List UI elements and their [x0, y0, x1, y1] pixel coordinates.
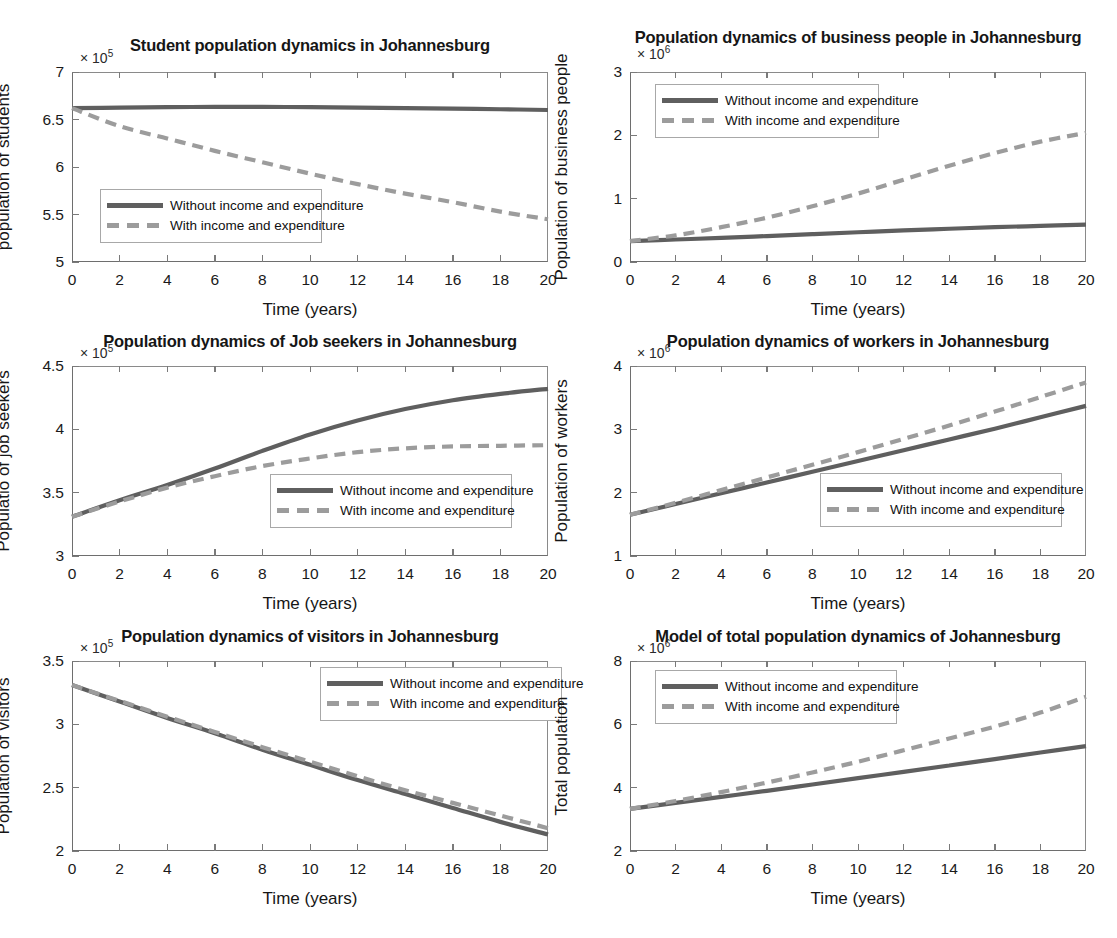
- xtick-total-population-5: 10: [849, 860, 866, 878]
- xtick-total-population-1: 2: [671, 860, 680, 878]
- xtick-total-population-7: 14: [941, 860, 958, 878]
- xtick-total-population-4: 8: [808, 860, 817, 878]
- exponent-prefix: × 10: [637, 640, 665, 656]
- series-line-without: [630, 746, 1086, 809]
- exponent-value: 6: [665, 638, 671, 649]
- ytick-total-population-2: 6: [568, 715, 622, 733]
- panel-total-population: Model of total population dynamics of Jo…: [0, 0, 1117, 938]
- xtick-total-population-2: 4: [717, 860, 726, 878]
- xtick-total-population-6: 12: [895, 860, 912, 878]
- legend-swatch-with: [662, 704, 718, 709]
- xtick-total-population-9: 18: [1032, 860, 1049, 878]
- ytick-total-population-3: 8: [568, 652, 622, 670]
- legend-label-with: With income and expenditure: [725, 699, 900, 714]
- y-axis-exponent-total-population: × 106: [637, 638, 670, 656]
- legend-label-without: Without income and expenditure: [725, 679, 919, 694]
- legend-key-without: [662, 680, 718, 692]
- legend-swatch-without: [662, 684, 718, 689]
- xtick-total-population-0: 0: [626, 860, 635, 878]
- legend-entry-without[interactable]: Without income and expenditure: [662, 676, 889, 696]
- ytick-total-population-1: 4: [568, 779, 622, 797]
- xtick-total-population-8: 16: [986, 860, 1003, 878]
- legend-total-population: Without income and expenditureWith incom…: [655, 670, 897, 724]
- xtick-total-population-10: 20: [1077, 860, 1094, 878]
- y-axis-label-total-population: Total population: [552, 631, 572, 881]
- x-axis-label-total-population: Time (years): [630, 889, 1086, 909]
- legend-key-with: [662, 700, 718, 712]
- ytick-total-population-0: 2: [568, 842, 622, 860]
- legend-entry-with[interactable]: With income and expenditure: [662, 696, 889, 716]
- xtick-total-population-3: 6: [762, 860, 771, 878]
